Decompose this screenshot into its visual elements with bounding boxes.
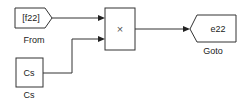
cs-block-label: Cs <box>24 90 35 100</box>
arrowhead-icon <box>98 15 105 21</box>
arrowhead-icon <box>98 36 105 42</box>
multiply-icon: × <box>117 23 123 35</box>
arrowhead-icon <box>183 26 190 32</box>
cs-block-value: Cs <box>24 68 35 78</box>
from-block-label: From <box>24 35 45 45</box>
goto-block-tag: e22 <box>210 24 225 34</box>
goto-block-label: Goto <box>203 46 223 56</box>
from-block-tag: [f22] <box>22 13 40 23</box>
signal-line-cs-product[interactable] <box>43 39 98 73</box>
